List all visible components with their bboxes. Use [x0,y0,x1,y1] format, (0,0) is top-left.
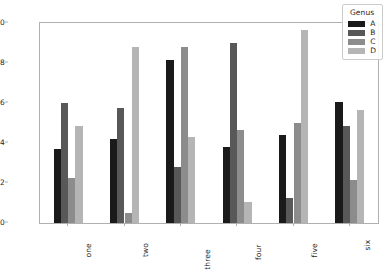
y-axis: 0.00.20.40.60.81.0 [0,0,39,261]
bar [110,139,117,223]
legend-label: A [370,19,375,28]
bar [68,178,75,223]
legend-title: Genus [348,8,376,17]
legend-items: ABCD [348,19,376,55]
x-tick-label: six [363,240,372,251]
bar [125,213,132,223]
bar [181,47,188,223]
bar [132,47,139,223]
bar [230,43,237,223]
bar [166,60,173,223]
bar [244,202,251,223]
y-tick-mark [5,142,8,143]
legend-label: C [370,37,375,46]
y-tick-mark [5,222,8,223]
x-tick-label: two [140,243,149,257]
legend-item: A [348,19,376,28]
legend-label: D [370,46,376,55]
x-tick-mark [349,223,350,226]
x-axis: onetwothreefourfivesix [39,223,379,261]
legend-item: B [348,28,376,37]
bar [117,108,124,223]
bar [188,137,195,223]
bar [343,126,350,223]
bar [54,149,61,223]
legend-swatch [348,48,365,54]
bar [301,30,308,223]
x-tick-mark [67,223,68,226]
y-tick-mark [5,182,8,183]
y-tick-mark [5,22,8,23]
legend-label: B [370,28,375,37]
x-tick-mark [236,223,237,226]
bar [223,147,230,223]
bar [350,180,357,223]
x-tick-mark [124,223,125,226]
bar [174,167,181,223]
x-tick-label: one [84,243,93,257]
bar [357,110,364,223]
y-tick-mark [5,102,8,103]
plot-area [39,22,379,224]
x-tick-label: three [203,249,212,269]
bar [75,126,82,223]
y-tick-mark [5,62,8,63]
bar [237,130,244,223]
bar [286,198,293,223]
bar [294,123,301,223]
chart-legend: Genus ABCD [342,4,383,60]
x-tick-label: five [310,243,319,257]
x-tick-mark [293,223,294,226]
bar [335,102,342,223]
x-tick-mark [180,223,181,226]
legend-item: C [348,37,376,46]
bar [279,135,286,223]
legend-swatch [348,30,365,36]
legend-item: D [348,46,376,55]
bar [61,103,68,223]
legend-swatch [348,39,365,45]
legend-swatch [348,21,365,27]
x-tick-label: four [255,244,264,259]
